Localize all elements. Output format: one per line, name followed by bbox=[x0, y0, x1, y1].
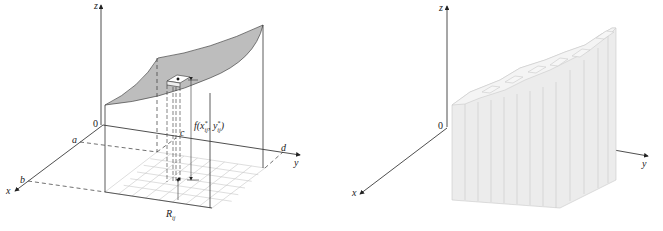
bound-c-label: c bbox=[180, 127, 185, 138]
origin-label-right: 0 bbox=[438, 120, 443, 131]
z-axis-label: z bbox=[93, 0, 98, 11]
region-grid bbox=[105, 152, 265, 208]
region-label: Rij bbox=[165, 208, 176, 221]
z-axis-label-right: z bbox=[438, 2, 443, 13]
bound-d-label: d bbox=[281, 142, 287, 153]
y-axis-label-right: y bbox=[641, 158, 647, 169]
x-axis-label: x bbox=[5, 185, 11, 196]
bound-a-label: a bbox=[72, 134, 77, 145]
x-axis-label-right: x bbox=[351, 187, 357, 198]
y-axis-right bbox=[614, 150, 648, 156]
x-axis-right bbox=[360, 128, 447, 194]
approximating-boxes bbox=[452, 28, 616, 208]
surface-patch bbox=[105, 25, 263, 105]
y-axis-label: y bbox=[293, 157, 299, 168]
right-diagram: z x y 0 bbox=[351, 2, 648, 208]
bound-b-label: b bbox=[20, 174, 25, 185]
left-diagram: z x y 0 a b c d f(x*ij, y*ij) Rij bbox=[5, 0, 300, 221]
height-label: f(x*ij, y*ij) bbox=[194, 120, 225, 133]
origin-label: 0 bbox=[93, 118, 98, 129]
